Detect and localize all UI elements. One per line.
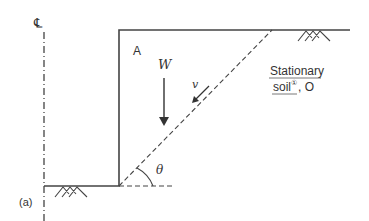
velocity-label: v [192,78,199,91]
block-label: A [133,44,141,58]
soil-superscript: ① [291,79,297,86]
ground-hatch-top-icon [298,31,330,41]
retaining-wall-diagram: ℄ θ A W v Stationary soil ① , O (a [0,0,369,221]
angle-arc [137,168,153,186]
soil-label-line2: soil [273,80,291,94]
ground-hatch-bottom-icon [55,187,87,197]
panel-label: (a) [19,196,32,208]
slip-plane [119,30,272,186]
stationary-soil-label: Stationary soil ① , O [269,64,324,94]
centerline-symbol: ℄ [33,15,43,30]
ground-profile [44,30,350,186]
angle-label: θ [156,163,164,177]
soil-label-line1: Stationary [270,64,324,78]
centerline: ℄ [33,15,44,221]
soil-label-suffix: , O [298,80,314,94]
weight-arrow-icon [159,78,169,126]
weight-label: W [158,57,173,72]
